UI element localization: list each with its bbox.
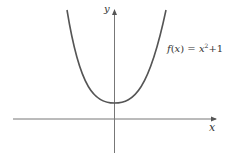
parabola-curve	[67, 10, 166, 103]
parabola-graph	[0, 0, 229, 162]
x-axis-label: x	[209, 121, 215, 134]
y-axis-label: y	[104, 3, 110, 14]
function-label: f(x) = x2+1	[167, 42, 223, 54]
function-constant: +1	[208, 43, 223, 54]
function-equals: =	[184, 43, 199, 54]
